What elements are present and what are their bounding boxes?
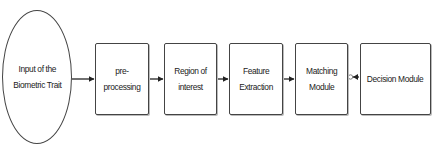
- connector-matching-decision: [348, 74, 359, 80]
- node-matching-module: Matching Module: [295, 43, 348, 115]
- node-input-biometric-trait: Input of the Biometric Trait: [2, 10, 72, 144]
- node-label: Input of the Biometric Trait: [13, 61, 61, 93]
- node-label: Feature Extraction: [239, 63, 273, 95]
- node-decision-module: Decision Module: [360, 43, 431, 115]
- node-region-of-interest: Region of interest: [164, 43, 217, 115]
- node-label: Matching Module: [306, 63, 337, 95]
- node-label: Decision Module: [367, 71, 424, 87]
- node-preprocessing: pre-processing: [95, 43, 149, 115]
- biometric-flow-diagram: Input of the Biometric Trait pre-process…: [0, 0, 448, 149]
- node-label: pre-processing: [99, 63, 145, 95]
- node-feature-extraction: Feature Extraction: [229, 43, 283, 115]
- node-label: Region of interest: [174, 63, 207, 95]
